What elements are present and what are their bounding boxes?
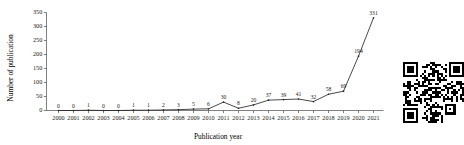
- x-tick-label: 2019: [337, 114, 349, 121]
- y-axis-title: Number of publication: [6, 34, 15, 102]
- data-point-label: 37: [266, 92, 272, 98]
- data-point-marker: [358, 55, 360, 57]
- data-point-marker: [238, 107, 240, 109]
- data-point-label: 0: [102, 103, 105, 109]
- data-point-marker: [73, 110, 75, 112]
- x-tick-label: 2020: [352, 114, 364, 121]
- data-point-label: 0: [117, 103, 120, 109]
- data-point-marker: [58, 110, 60, 112]
- x-tick-label: 2011: [217, 114, 229, 121]
- data-point-label: 0: [57, 103, 60, 109]
- y-tick-label: 300: [33, 22, 42, 29]
- y-axis-tick-labels: 050100150200250300350: [33, 8, 42, 113]
- data-point-label: 0: [72, 103, 75, 109]
- x-tick-label: 2005: [127, 114, 139, 121]
- data-point-label: 41: [296, 91, 302, 97]
- data-point-marker: [178, 109, 180, 111]
- publication-trend-figure: Number of publication Publication year 0…: [0, 0, 464, 145]
- data-point-label: 58: [326, 86, 332, 92]
- data-point-marker: [193, 108, 195, 110]
- x-tick-label: 2016: [292, 114, 304, 121]
- data-point-marker: [253, 104, 255, 106]
- data-point-label: 69: [341, 83, 347, 89]
- data-point-marker: [103, 110, 105, 112]
- data-point-label: 1: [147, 102, 150, 108]
- y-tick-label: 200: [33, 50, 42, 57]
- y-tick-label: 50: [36, 92, 42, 99]
- data-point-marker: [208, 108, 210, 110]
- x-tick-label: 2004: [112, 114, 124, 121]
- y-tick-label: 350: [33, 8, 42, 15]
- data-point-label: 30: [221, 94, 227, 100]
- data-point-marker: [343, 90, 345, 92]
- data-point-marker: [328, 93, 330, 95]
- x-tick-label: 2021: [367, 114, 379, 121]
- x-axis-tick-labels: 2000200120022003200420052006200720082009…: [52, 114, 379, 121]
- data-point-label: 1: [87, 102, 90, 108]
- data-point-marker: [313, 101, 315, 103]
- data-point-markers: [58, 17, 375, 111]
- y-axis-ticks: [44, 13, 47, 111]
- data-point-label: 3: [177, 102, 180, 108]
- data-point-marker: [283, 99, 285, 101]
- y-tick-label: 250: [33, 36, 42, 43]
- data-point-label: 1: [132, 102, 135, 108]
- data-point-marker: [298, 98, 300, 100]
- x-tick-label: 2017: [307, 114, 319, 121]
- x-tick-label: 2007: [157, 114, 169, 121]
- y-tick-label: 0: [39, 106, 42, 113]
- data-point-marker: [148, 109, 150, 111]
- qr-code-image: [403, 62, 464, 123]
- x-tick-label: 2008: [172, 114, 184, 121]
- x-tick-label: 2006: [142, 114, 154, 121]
- data-point-marker: [373, 17, 375, 19]
- x-tick-label: 2000: [52, 114, 64, 121]
- x-tick-label: 2012: [232, 114, 244, 121]
- x-tick-label: 2018: [322, 114, 334, 121]
- x-tick-label: 2013: [247, 114, 259, 121]
- x-tick-label: 2014: [262, 114, 274, 121]
- data-point-label: 39: [281, 92, 287, 98]
- data-point-marker: [88, 109, 90, 111]
- publication-line-chart: Number of publication Publication year 0…: [0, 0, 464, 145]
- qr-code-container: [403, 62, 464, 137]
- x-axis-title: Publication year: [194, 132, 243, 141]
- data-point-label: 8: [237, 100, 240, 106]
- data-point-marker: [118, 110, 120, 112]
- data-point-marker: [163, 109, 165, 111]
- x-tick-label: 2009: [187, 114, 199, 121]
- data-point-marker: [223, 101, 225, 103]
- data-point-marker: [268, 99, 270, 101]
- x-tick-label: 2001: [67, 114, 79, 121]
- data-point-label: 5: [192, 101, 195, 107]
- x-tick-label: 2015: [277, 114, 289, 121]
- x-tick-label: 2010: [202, 114, 214, 121]
- data-point-label: 2: [162, 102, 165, 108]
- y-tick-label: 100: [33, 78, 42, 85]
- y-tick-label: 150: [33, 64, 42, 71]
- publication-count-line: [59, 18, 374, 111]
- data-point-label: 32: [311, 94, 317, 100]
- data-point-label: 6: [207, 101, 210, 107]
- data-point-marker: [133, 109, 135, 111]
- data-point-label: 20: [251, 97, 257, 103]
- data-point-label: 194: [354, 48, 363, 54]
- x-tick-label: 2003: [97, 114, 109, 121]
- data-point-label: 331: [369, 10, 378, 16]
- x-tick-label: 2002: [82, 114, 94, 121]
